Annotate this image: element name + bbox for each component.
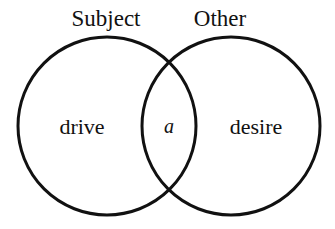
region-label-drive: drive	[59, 114, 104, 139]
venn-diagram-canvas: Subject Other drive a desire	[0, 0, 335, 229]
venn-diagram: Subject Other drive a desire	[0, 0, 335, 229]
set-label-other: Other	[194, 6, 247, 31]
region-label-desire: desire	[230, 114, 283, 139]
set-label-subject: Subject	[72, 6, 142, 31]
region-label-objet-a: a	[164, 115, 174, 137]
